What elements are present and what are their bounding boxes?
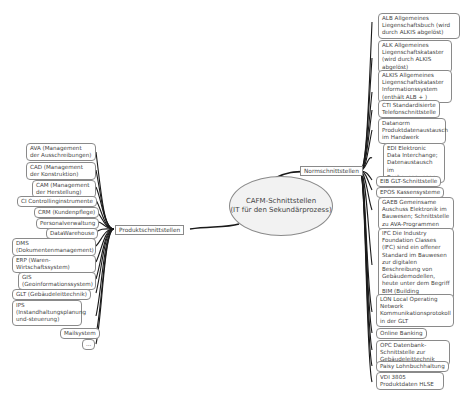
norm-item-paisy[interactable]: Paisy Lohnbuchhaltung — [376, 361, 449, 372]
norm-item-gaeb[interactable]: GAEB Gemeinsame Auschuss Elektronik im B… — [378, 197, 454, 230]
produkt-item-dms[interactable]: DMS (Dokumentenmanagement) — [12, 238, 96, 256]
norm-item-datanorm[interactable]: Datanorm Produktdatenaustausch im Handwe… — [378, 118, 446, 144]
central-topic-line1: CAFM-Schnittstellen — [246, 197, 316, 206]
norm-item-alkis[interactable]: ALKIS Allgemeines Liegenschaftskataster … — [378, 70, 452, 103]
norm-item-alb[interactable]: ALB Allgemeines Liegenschaftsbuch (wird … — [378, 13, 460, 39]
branch-normschnittstellen[interactable]: Normschnittstellen — [300, 166, 363, 176]
norm-item-cti[interactable]: CTI Standardisierte Telefonschnittstelle — [378, 100, 440, 118]
central-topic-line2: (IT für den Sekundärprozess) — [230, 206, 331, 215]
norm-item-eib[interactable]: EIB GLT-Schnittstelle — [376, 176, 441, 187]
produkt-item-glt[interactable]: GLT (Gebäudeleittechnik) — [12, 289, 91, 300]
produkt-item-more[interactable]: ... — [82, 339, 95, 350]
produkt-item-mailsystem[interactable]: Mailsystem — [60, 328, 100, 339]
norm-item-lon[interactable]: LON Local Operating Network Kommunikatio… — [376, 294, 454, 327]
norm-item-vdi3805[interactable]: VDI 3805 Produktdaten HLSE — [376, 372, 444, 390]
produkt-item-gis[interactable]: GIS (Geoinformationssystem) — [18, 272, 96, 290]
norm-item-online-banking[interactable]: Online Banking — [376, 328, 427, 339]
produkt-item-crm[interactable]: CRM (Kundenpflege) — [34, 207, 99, 218]
norm-item-alk[interactable]: ALK Allgemeines Liegenschaftskataster (w… — [378, 40, 452, 73]
central-topic[interactable]: CAFM-Schnittstellen (IT für den Sekundär… — [229, 176, 333, 236]
produkt-item-ci[interactable]: CI Controllinginstrumente — [17, 196, 97, 207]
produkt-item-ips[interactable]: IPS (Instandhaltungsplanung und-steuerun… — [12, 300, 82, 326]
produkt-item-ava[interactable]: AVA (Management der Ausschreibungen) — [26, 143, 96, 161]
produkt-item-cad[interactable]: CAD (Management der Konstruktion) — [26, 162, 96, 180]
produkt-item-erp[interactable]: ERP (Waren-Wirtschaftssystem) — [12, 255, 96, 273]
branch-produktschnittstellen[interactable]: Produktschnittstellen — [115, 225, 184, 235]
